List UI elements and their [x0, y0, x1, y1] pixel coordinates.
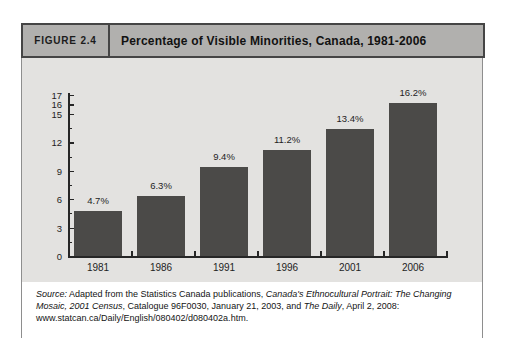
bar-value-label: 16.2% — [378, 87, 448, 98]
bar — [74, 211, 122, 256]
x-axis-tick-label: 1986 — [126, 262, 196, 273]
bar — [263, 150, 311, 256]
figure-box: FIGURE 2.4 Percentage of Visible Minorit… — [21, 23, 483, 338]
x-axis-tick — [194, 251, 196, 256]
y-axis-tick-label: 16 — [22, 99, 62, 110]
bar — [137, 196, 185, 256]
figure-title: Percentage of Visible Minorities, Canada… — [110, 34, 426, 48]
x-axis-tick-label: 1996 — [252, 262, 322, 273]
y-axis-tick-label: 3 — [22, 223, 62, 234]
bar-value-label: 13.4% — [315, 113, 385, 124]
figure-header: FIGURE 2.4 Percentage of Visible Minorit… — [21, 23, 485, 58]
source-segment: , Catalogue 96F0030, January 21, 2003, a… — [123, 301, 304, 311]
x-axis-tick-label: 2006 — [378, 262, 448, 273]
bar — [326, 129, 374, 256]
y-axis-tick-label: 12 — [22, 137, 62, 148]
source-segment-italic: Source: — [36, 289, 67, 299]
y-axis-tick — [68, 142, 74, 143]
y-axis-minor-tick — [68, 128, 72, 129]
x-axis-tick — [257, 251, 259, 256]
y-axis-tick — [68, 104, 74, 105]
y-axis-tick-label: 15 — [22, 109, 62, 120]
bar — [389, 103, 437, 256]
x-axis-tick-label: 1991 — [189, 262, 259, 273]
x-axis-tick — [383, 251, 385, 256]
y-axis-tick — [68, 95, 74, 96]
x-axis-tick — [131, 251, 133, 256]
y-axis-minor-tick — [68, 157, 72, 158]
x-axis-tick-label: 1981 — [63, 262, 133, 273]
x-axis-tick — [446, 251, 448, 256]
y-axis-tick-label: 9 — [22, 166, 62, 177]
bar-value-label: 11.2% — [252, 134, 322, 145]
x-axis-tick-label: 2001 — [315, 262, 385, 273]
source-segment-italic: The Daily — [304, 301, 342, 311]
bar-value-label: 6.3% — [126, 180, 196, 191]
y-axis-minor-tick — [68, 185, 72, 186]
y-axis-tick — [68, 114, 74, 115]
y-axis-tick-label: 6 — [22, 194, 62, 205]
source-note: Source: Adapted from the Statistics Cana… — [22, 282, 482, 338]
bar — [200, 167, 248, 256]
source-segment: Adapted from the Statistics Canada publi… — [67, 289, 266, 299]
y-axis-tick-label: 17 — [22, 90, 62, 101]
bar-value-label: 4.7% — [63, 195, 133, 206]
x-axis-line — [68, 256, 448, 258]
y-axis-minor-tick — [68, 213, 72, 214]
x-axis-tick — [320, 251, 322, 256]
bar-chart: 0369121516174.7%19816.3%19869.4%199111.2… — [22, 58, 482, 282]
y-axis-tick — [68, 171, 74, 172]
bar-value-label: 9.4% — [189, 151, 259, 162]
y-axis-minor-tick — [68, 242, 72, 243]
y-axis-line — [68, 93, 70, 257]
figure-number-label: FIGURE 2.4 — [23, 35, 108, 46]
y-axis-tick-label: 0 — [22, 251, 62, 262]
